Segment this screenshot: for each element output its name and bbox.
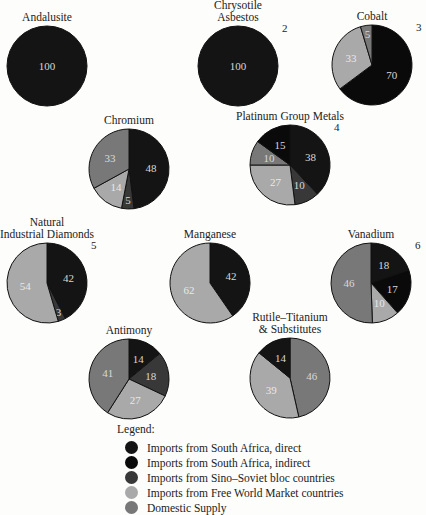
footnote-marker: 6 (415, 239, 421, 251)
pie-title: NaturalIndustrial Diamonds (0, 216, 127, 240)
legend-label: Imports from South Africa, indirect (147, 457, 310, 469)
slice-value-label: 18 (145, 370, 157, 382)
legend-item-domestic: Domestic Supply (125, 500, 227, 515)
slice-value-label: 27 (270, 176, 282, 188)
slice-value-label: 62 (183, 284, 194, 296)
slice-value-label: 27 (130, 394, 142, 406)
legend-item-sa-indirect: Imports from South Africa, indirect (125, 455, 310, 470)
slice-value-label: 17 (387, 283, 399, 295)
legend-swatch-icon (125, 456, 138, 469)
legend-label: Imports from South Africa, direct (147, 442, 301, 454)
pie-chromium: 4851433 (89, 129, 169, 209)
legend-swatch-icon (125, 471, 138, 484)
footnote-marker: 5 (91, 239, 97, 251)
legend-label: Imports from Free World Market countries (147, 487, 344, 499)
slice-value-label: 14 (111, 181, 123, 193)
slice-value-label: 100 (230, 60, 247, 72)
legend-item-sa-direct: Imports from South Africa, direct (125, 440, 301, 455)
legend-item-free-world: Imports from Free World Market countries (125, 485, 344, 500)
slice-value-label: 10 (264, 152, 276, 164)
slice-value-label: 14 (275, 352, 287, 364)
pie-chrysotile-asbestos: 100 (198, 26, 278, 106)
slice-value-label: 46 (344, 277, 356, 289)
footnote-marker: 3 (416, 21, 422, 33)
slice-value-label: 48 (145, 162, 157, 174)
slice-value-label: 33 (346, 52, 358, 64)
footnote-marker: 2 (282, 22, 288, 34)
pie-antimony: 14182741 (89, 339, 169, 419)
slice-value-label: 5 (365, 28, 371, 40)
slice-value-label: 10 (374, 297, 386, 309)
pie-title: Platinum Group Metals (210, 110, 370, 122)
pie-title: Vanadium (291, 228, 426, 240)
legend-label: Domestic Supply (147, 502, 227, 514)
pie-title: Rutile–Titanium& Substitutes (210, 311, 370, 335)
legend-item-sino-soviet: Imports from Sino–Soviet bloc countries (125, 470, 335, 485)
pie-andalusite: 100 (7, 26, 87, 106)
slice-value-label: 100 (39, 60, 56, 72)
slice-value-label: 14 (133, 353, 145, 365)
slice-value-label: 54 (20, 280, 32, 292)
legend-swatch-icon (125, 441, 138, 454)
slice-value-label: 42 (63, 272, 74, 284)
pie-title: Cobalt (292, 10, 426, 22)
slice-value-label: 5 (125, 194, 131, 206)
legend-label: Imports from Sino–Soviet bloc countries (147, 472, 335, 484)
legend-swatch-icon (125, 501, 138, 514)
footnote-marker: 4 (334, 121, 340, 133)
slice-value-label: 15 (275, 139, 287, 151)
pie-rutile-titanium: 463914 (250, 338, 330, 418)
pie-title: Antimony (49, 324, 209, 336)
slice-value-label: 10 (294, 179, 306, 191)
pie-natural-industrial-diamonds: 42354 (7, 243, 87, 323)
slice-value-label: 38 (305, 151, 317, 163)
pie-title: Manganese (130, 228, 290, 240)
slice-value-label: 33 (105, 152, 117, 164)
pie-platinum-group-metals: 3810271015 (250, 125, 330, 205)
slice-value-label: 42 (226, 270, 237, 282)
legend-title: Legend: (117, 423, 155, 435)
pie-title: Chromium (49, 114, 209, 126)
pie-cobalt: 70335 (332, 25, 412, 105)
slice-value-label: 46 (306, 370, 318, 382)
legend-swatch-icon (125, 486, 138, 499)
slice-value-label: 39 (266, 384, 278, 396)
slice-value-label: 41 (102, 367, 113, 379)
slice-value-label: 18 (378, 259, 390, 271)
pie-title: Andalusite (0, 11, 127, 23)
slice-value-label: 70 (386, 69, 398, 81)
